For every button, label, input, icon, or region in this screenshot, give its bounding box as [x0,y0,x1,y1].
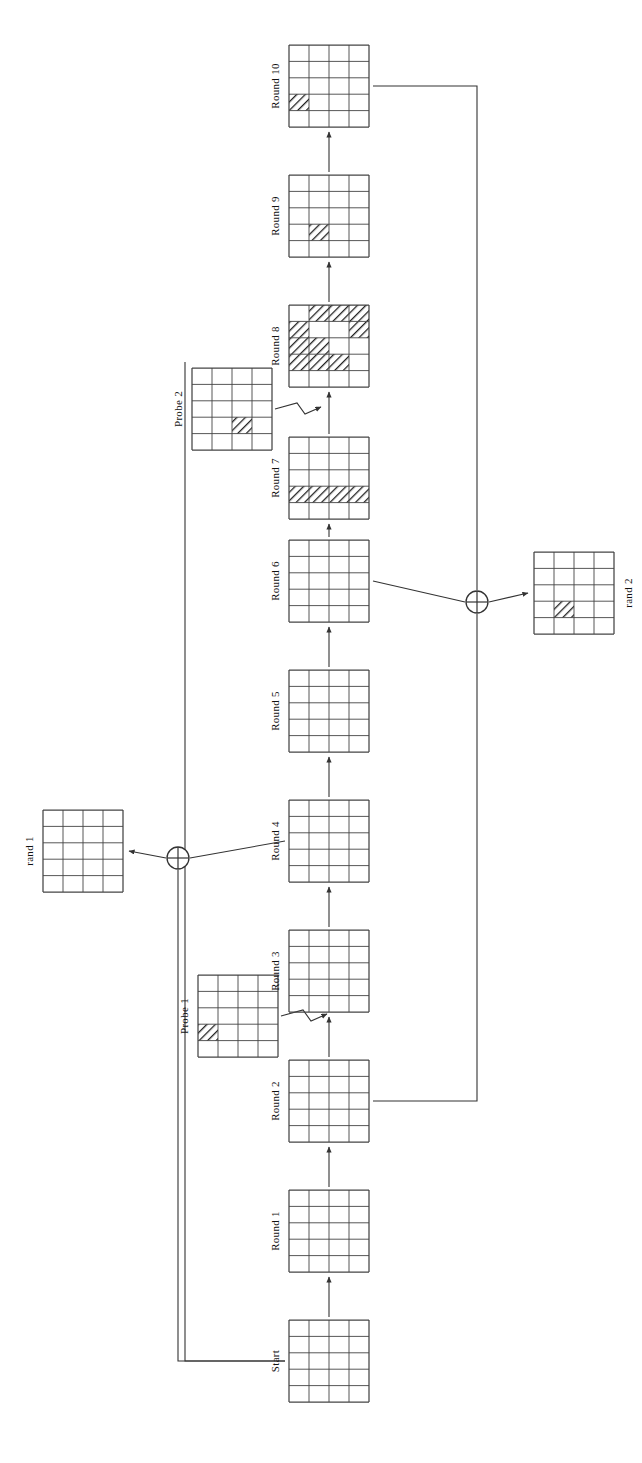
edge-xor1-rand1 [129,851,166,858]
state-grid-rand2 [534,552,614,634]
state-grid-probe1 [198,975,278,1057]
hatched-cell [289,354,309,370]
node-label-rand2: rand 2 [622,578,634,608]
xor-operator-xor1 [167,847,189,869]
hatched-cell [329,486,349,502]
state-grid-start [289,1320,369,1402]
node-label-rand1: rand 1 [23,836,35,866]
edge-round6-xor2 [373,581,465,602]
xor-operator-xor2 [466,591,488,613]
edge-round2-xor2-feedback [373,614,477,1101]
hatched-cell [289,321,309,337]
node-label-round5: Round 5 [269,691,281,731]
hatched-cell [329,305,349,321]
node-label-round3: Round 3 [269,951,281,991]
hatched-cell [349,486,369,502]
state-grid-round3 [289,930,369,1012]
node-label-round10: Round 10 [269,63,281,109]
node-label-round9: Round 9 [269,196,281,236]
node-label-round6: Round 6 [269,561,281,601]
node-label-round7: Round 7 [269,458,281,498]
node-label-round4: Round 4 [269,821,281,861]
operator-layer [167,591,488,869]
hatched-cell [329,354,349,370]
state-grid-round8 [289,305,369,387]
state-grid-round1 [289,1190,369,1272]
state-grid-round2 [289,1060,369,1142]
hatched-cell [309,354,329,370]
node-label-start: Start [269,1350,281,1372]
node-label-round2: Round 2 [269,1081,281,1121]
hatched-cell [554,601,574,617]
node-label-round1: Round 1 [269,1211,281,1251]
state-grid-round7 [289,437,369,519]
state-grid-round9 [289,175,369,257]
edge-xor2-rand2 [489,593,528,602]
node-label-probe1: Probe 1 [178,998,190,1034]
node-label-probe2: Probe 2 [172,391,184,427]
hatched-cell [349,305,369,321]
hatched-cell [309,224,329,240]
hatched-cell [349,321,369,337]
hatched-cell [232,417,252,433]
hatched-cell [198,1024,218,1040]
hatched-cell [309,305,329,321]
edge-probe2-injection [275,403,321,414]
diagram-svg [0,0,642,1463]
node-label-round8: Round 8 [269,326,281,366]
edge-layer [129,86,528,1361]
state-grid-round10 [289,45,369,127]
hatched-cell [309,486,329,502]
hatched-cell [309,338,329,354]
state-grid-rand1 [43,810,123,892]
figure-canvas: StartRound 1Round 2Probe 1Round 3Round 4… [0,0,642,1463]
hatched-cell [289,486,309,502]
state-grid-probe2 [192,368,272,450]
state-grid-round6 [289,540,369,622]
hatched-cell [289,94,309,110]
edge-round10-xor2-feedback [373,86,477,590]
state-grid-round5 [289,670,369,752]
hatched-cell [289,338,309,354]
node-layer [43,45,614,1402]
state-grid-round4 [289,800,369,882]
